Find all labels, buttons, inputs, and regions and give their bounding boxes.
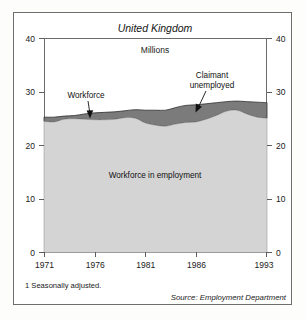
y-axis-right-ticks: 40 30 20 10 0 — [267, 34, 286, 258]
area-workforce-in-employment — [44, 110, 267, 252]
annotation-claimant-line2: unemployed — [190, 81, 235, 90]
chart-figure: United Kingdom 40 30 20 10 0 — [0, 0, 306, 320]
band-label-workforce-in-employment: Workforce in employment — [109, 171, 202, 180]
y-tick-left-40: 40 — [26, 34, 36, 44]
y-tick-left-20: 20 — [26, 141, 36, 151]
unit-label: Millions — [141, 45, 169, 55]
x-tick-1971: 1971 — [35, 260, 54, 270]
footnote-text: 1 Seasonally adjusted. — [25, 281, 101, 290]
y-tick-left-10: 10 — [26, 194, 36, 204]
annotation-claimant-line1: Claimant — [196, 71, 229, 80]
x-tick-1976: 1976 — [86, 260, 105, 270]
source-note: Source: Employment Department — [171, 293, 287, 302]
y-axis-left-ticks: 40 30 20 10 0 — [26, 34, 44, 258]
annotation-workforce-label: Workforce — [67, 91, 105, 100]
y-tick-right-20: 20 — [276, 141, 286, 151]
x-axis-ticks: 1971 1976 1981 1986 1993 — [35, 252, 274, 270]
chart-canvas: United Kingdom 40 30 20 10 0 — [0, 0, 306, 320]
y-tick-right-0: 0 — [276, 248, 281, 258]
y-tick-right-30: 30 — [276, 87, 286, 97]
x-tick-1981: 1981 — [136, 260, 155, 270]
y-tick-left-30: 30 — [26, 87, 36, 97]
y-tick-right-40: 40 — [276, 34, 286, 44]
chart-title: United Kingdom — [118, 22, 193, 34]
y-tick-right-10: 10 — [276, 194, 286, 204]
x-tick-1986: 1986 — [187, 260, 206, 270]
x-tick-1993: 1993 — [255, 260, 274, 270]
y-tick-left-0: 0 — [30, 248, 35, 258]
